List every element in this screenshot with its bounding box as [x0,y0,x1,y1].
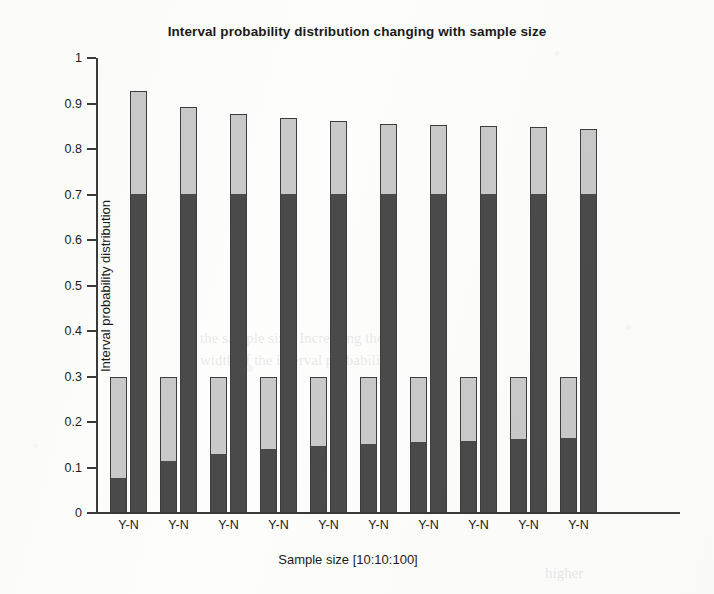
stacked-bar [530,127,547,513]
x-tick-label: Y-N [368,518,388,532]
n-bar-dark-segment [431,194,446,513]
x-tick-label: Y-N [118,518,138,532]
y-tick-label: 0.3 [65,370,82,384]
n-bar-light-segment [581,130,596,194]
y-tick-label: 0.8 [65,142,82,156]
y-bar-dark-segment [461,441,476,512]
y-bar-light-segment [561,378,576,438]
stacked-bar [210,377,227,514]
n-bar-light-segment [381,125,396,194]
n-bar-dark-segment [181,194,196,513]
y-tick-label: 0.9 [65,97,82,111]
stacked-bar [330,121,347,513]
n-bar-dark-segment [281,194,296,513]
n-bar-dark-segment [581,194,596,513]
stacked-bar [260,377,277,514]
y-tick-label: 0 [75,506,82,520]
n-bar-light-segment [181,108,196,194]
y-tick-label: 0.1 [65,461,82,475]
x-tick-label: Y-N [168,518,188,532]
y-bar-dark-segment [561,438,576,512]
y-tick-mark [87,467,96,469]
stacked-bar [510,377,527,514]
chart-figure: Interval probability distribution changi… [0,0,714,594]
y-tick-label: 0.7 [65,188,82,202]
x-tick-label: Y-N [518,518,538,532]
stacked-bar [310,377,327,514]
y-bar-light-segment [111,378,126,478]
n-bar-dark-segment [531,194,546,513]
n-bar-light-segment [531,128,546,193]
n-bar-dark-segment [481,194,496,513]
y-bar-light-segment [511,378,526,439]
n-bar-dark-segment [331,194,346,513]
y-tick-mark [87,285,96,287]
y-bar-light-segment [261,378,276,450]
y-tick-mark [87,512,96,514]
y-tick-mark [87,239,96,241]
n-bar-dark-segment [131,194,146,513]
stacked-bar [180,107,197,513]
n-bar-light-segment [331,122,346,193]
y-bar-light-segment [211,378,226,455]
chart-title: Interval probability distribution changi… [0,24,714,39]
plot-area: Interval probability distribution 00.10.… [96,58,600,513]
y-tick-mark [87,421,96,423]
y-bar-light-segment [361,378,376,444]
n-bar-dark-segment [231,194,246,513]
stacked-bar [480,126,497,513]
y-bar-dark-segment [111,478,126,512]
x-tick-label: Y-N [418,518,438,532]
stacked-bar [110,377,127,514]
y-bar-dark-segment [161,461,176,512]
y-bar-dark-segment [261,449,276,512]
y-bar-light-segment [161,378,176,462]
stacked-bar [230,114,247,513]
stacked-bar [360,377,377,514]
y-bar-dark-segment [311,446,326,512]
stacked-bar [160,377,177,514]
n-bar-dark-segment [381,194,396,513]
y-bar-dark-segment [361,444,376,512]
stacked-bar [580,129,597,513]
y-tick-mark [87,194,96,196]
y-tick-label: 0.4 [65,324,82,338]
n-bar-light-segment [281,119,296,193]
stacked-bar [130,91,147,513]
y-tick-mark [87,103,96,105]
y-tick-mark [87,148,96,150]
y-bar-dark-segment [411,442,426,512]
y-bar-dark-segment [511,439,526,512]
y-tick-mark [87,57,96,59]
y-axis-label: Interval probability distribution [98,200,113,372]
y-bar-light-segment [461,378,476,441]
y-tick-label: 0.6 [65,233,82,247]
y-bar-light-segment [411,378,426,442]
x-axis-label: Sample size [10:10:100] [96,552,600,567]
stacked-bar [380,124,397,513]
stacked-bar [410,377,427,514]
x-tick-label: Y-N [318,518,338,532]
stacked-bar [560,377,577,514]
x-tick-label: Y-N [468,518,488,532]
y-tick-label: 0.2 [65,415,82,429]
stacked-bar [280,118,297,513]
y-tick-mark [87,330,96,332]
n-bar-light-segment [231,115,246,194]
y-tick-mark [87,376,96,378]
stacked-bar [460,377,477,514]
y-tick-label: 0.5 [65,279,82,293]
n-bar-light-segment [431,126,446,194]
n-bar-light-segment [481,127,496,194]
y-tick-label: 1 [75,51,82,65]
n-bar-light-segment [131,92,146,194]
stacked-bar [430,125,447,513]
x-tick-label: Y-N [568,518,588,532]
x-tick-label: Y-N [218,518,238,532]
x-tick-label: Y-N [268,518,288,532]
y-bar-dark-segment [211,454,226,512]
y-bar-light-segment [311,378,326,447]
x-axis-line [96,512,680,514]
y-axis-line [96,58,98,514]
